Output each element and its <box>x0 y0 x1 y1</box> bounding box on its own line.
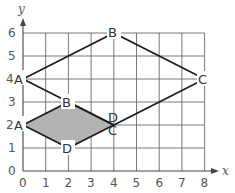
vertex-label-large-B: B <box>108 25 117 40</box>
grid-svg: A B C D A B C D 0 1 2 3 4 5 6 7 8 0 1 2 … <box>0 0 235 193</box>
coordinate-diagram: A B C D A B C D 0 1 2 3 4 5 6 7 8 0 1 2 … <box>0 0 235 193</box>
svg-text:2: 2 <box>6 118 14 132</box>
vertex-label-small-B: B <box>62 95 71 110</box>
svg-text:4: 4 <box>6 72 14 86</box>
x-axis-arrow-icon <box>211 168 219 174</box>
svg-text:3: 3 <box>8 95 16 109</box>
svg-text:6: 6 <box>156 176 164 190</box>
svg-text:0: 0 <box>8 164 16 178</box>
svg-text:1: 1 <box>42 176 50 190</box>
svg-text:5: 5 <box>8 49 16 63</box>
vertex-label-small-D: D <box>62 141 72 156</box>
svg-text:0: 0 <box>19 176 27 190</box>
y-axis-label: y <box>17 2 25 16</box>
svg-text:2: 2 <box>65 176 73 190</box>
axes <box>23 22 214 171</box>
svg-text:5: 5 <box>133 176 141 190</box>
y-axis-arrow-icon <box>20 18 26 26</box>
svg-text:4: 4 <box>110 176 118 190</box>
y-tick-labels: 0 1 2 3 4 5 6 <box>6 26 16 178</box>
grid <box>23 33 205 171</box>
vertex-label-small-A: A <box>14 118 23 133</box>
vertex-label-large-C: C <box>198 72 207 87</box>
svg-text:8: 8 <box>201 176 209 190</box>
x-axis-label: x <box>222 164 229 178</box>
svg-text:3: 3 <box>87 176 95 190</box>
vertex-label-large-A: A <box>14 72 23 87</box>
vertex-label-small-C: C <box>108 123 117 138</box>
svg-text:7: 7 <box>178 176 186 190</box>
x-tick-labels: 0 1 2 3 4 5 6 7 8 <box>19 176 208 190</box>
svg-text:1: 1 <box>8 141 16 155</box>
svg-text:6: 6 <box>8 26 16 40</box>
